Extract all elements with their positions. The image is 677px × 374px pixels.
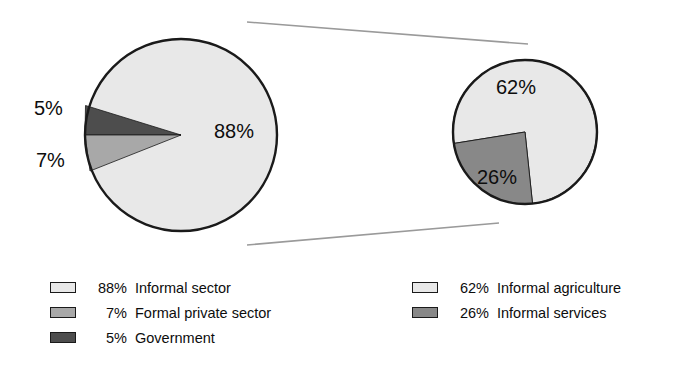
legend-item-informal-sector[interactable]: 88% Informal sector — [50, 279, 271, 296]
left-pie-label-government: 5% — [34, 97, 63, 120]
left-pie-label-informal-sector: 88% — [214, 120, 254, 143]
legend-label-informal-sector: Informal sector — [135, 280, 231, 296]
legend-label-informal-agriculture: Informal agriculture — [497, 280, 621, 296]
legend-left: 88% Informal sector 7% Formal private se… — [50, 279, 271, 346]
left-pie-label-formal-private: 7% — [36, 149, 65, 172]
connector-line-bottom — [247, 223, 499, 245]
legend-percent-formal-private-sector: 7% — [85, 305, 127, 321]
legend-swatch-informal-agriculture — [412, 282, 438, 293]
legend-percent-informal-services: 26% — [447, 305, 489, 321]
legend-label-informal-services: Informal services — [497, 305, 607, 321]
legend-swatch-government — [50, 332, 76, 343]
connector-line-top — [247, 22, 528, 44]
legend-item-informal-agriculture[interactable]: 62% Informal agriculture — [412, 279, 621, 296]
legend-label-formal-private-sector: Formal private sector — [135, 305, 271, 321]
pie-chart-figure: 88% 5% 7% 62% 26% 88% Informal sector 7%… — [0, 0, 677, 374]
legend-item-formal-private-sector[interactable]: 7% Formal private sector — [50, 304, 271, 321]
legend-label-government: Government — [135, 330, 215, 346]
legend-percent-government: 5% — [85, 330, 127, 346]
legend-swatch-informal-services — [412, 307, 438, 318]
legend-swatch-informal-sector — [50, 282, 76, 293]
right-pie-label-informal-services: 26% — [477, 166, 517, 189]
legend-item-informal-services[interactable]: 26% Informal services — [412, 304, 621, 321]
legend-percent-informal-agriculture: 62% — [447, 280, 489, 296]
right-pie-label-informal-agriculture: 62% — [496, 76, 536, 99]
legend-percent-informal-sector: 88% — [85, 280, 127, 296]
legend-item-government[interactable]: 5% Government — [50, 329, 271, 346]
legend-right: 62% Informal agriculture 26% Informal se… — [412, 279, 621, 321]
legend-swatch-formal-private-sector — [50, 307, 76, 318]
